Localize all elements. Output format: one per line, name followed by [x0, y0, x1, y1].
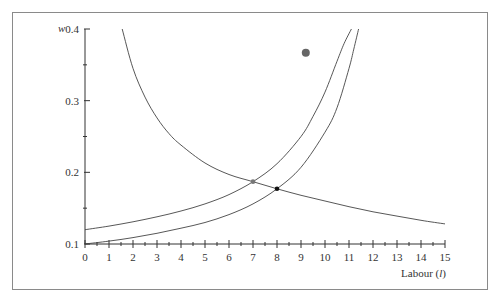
x-tick-label: 1	[106, 251, 112, 263]
series-line-1	[85, 29, 351, 230]
point-equilibrium-1	[251, 179, 256, 184]
x-axis-label: Labour (l)	[401, 267, 446, 280]
y-tick-label: 0.1	[65, 238, 79, 250]
x-tick-label: 9	[298, 251, 304, 263]
y-tick-label: 0.2	[65, 166, 79, 178]
axes: 01234567891011121314150.10.20.30.4	[65, 23, 451, 263]
series-line-0	[122, 29, 445, 224]
chart: 01234567891011121314150.10.20.30.4 w Lab…	[0, 0, 503, 305]
x-tick-label: 7	[250, 251, 256, 263]
x-tick-label: 15	[440, 251, 452, 263]
x-tick-label: 8	[274, 251, 280, 263]
series-line-2	[85, 29, 359, 244]
points	[251, 49, 310, 191]
x-tick-label: 13	[392, 251, 404, 263]
x-tick-label: 5	[202, 251, 208, 263]
x-tick-label: 12	[368, 251, 379, 263]
x-tick-label: 0	[82, 251, 88, 263]
x-tick-label: 4	[178, 251, 184, 263]
y-tick-label: 0.4	[65, 23, 79, 35]
point-equilibrium-2	[275, 187, 280, 192]
curves	[85, 29, 445, 244]
x-tick-label: 6	[226, 251, 232, 263]
x-tick-label: 14	[416, 251, 428, 263]
x-tick-label: 3	[154, 251, 160, 263]
y-tick-label: 0.3	[65, 95, 79, 107]
x-tick-label: 11	[344, 251, 355, 263]
y-axis-label: w	[58, 22, 66, 34]
x-tick-label: 10	[320, 251, 332, 263]
x-tick-label: 2	[130, 251, 136, 263]
point-marker	[302, 49, 310, 57]
